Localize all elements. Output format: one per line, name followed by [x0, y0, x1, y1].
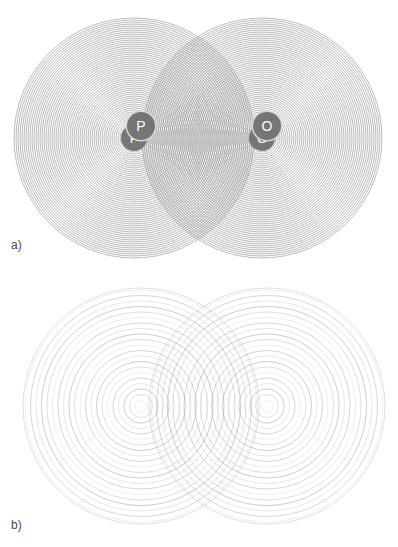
wave-pattern-a — [0, 0, 398, 280]
panel-label-a: a) — [11, 239, 22, 251]
panel-a: P O a) — [0, 0, 398, 280]
source-marker-p[interactable]: P — [127, 112, 155, 140]
panel-b: P O b) — [0, 280, 398, 547]
source-label-p: P — [136, 118, 145, 134]
wave-pattern-b — [0, 280, 398, 547]
source-label-o: O — [262, 118, 273, 134]
source-marker-o[interactable]: O — [253, 112, 281, 140]
panel-label-b: b) — [11, 519, 22, 531]
figure-root: P O a) P O b) — [0, 0, 398, 547]
